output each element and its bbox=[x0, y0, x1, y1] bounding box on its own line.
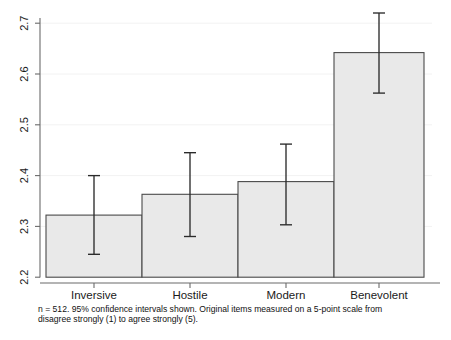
x-tick-label-inversive: Inversive bbox=[71, 289, 117, 301]
x-tick-label-hostile: Hostile bbox=[172, 289, 207, 301]
chart-note-line-2: disagree strongly (1) to agree strongly … bbox=[38, 314, 198, 324]
y-tick-label-1: 2.3 bbox=[18, 219, 30, 234]
x-tick-label-modern: Modern bbox=[267, 289, 306, 301]
chart-figure: 2.7 2.6 2.5 2.4 2.3 2.2 bbox=[0, 0, 451, 340]
x-axis-tick-labels: Inversive Hostile Modern Benevolent bbox=[71, 289, 409, 301]
y-tick-label-5: 2.7 bbox=[18, 16, 30, 31]
y-axis-tick-labels: 2.7 2.6 2.5 2.4 2.3 2.2 bbox=[18, 16, 30, 285]
bar-chart-with-error-bars: 2.7 2.6 2.5 2.4 2.3 2.2 bbox=[0, 0, 451, 340]
y-tick-label-0: 2.2 bbox=[18, 270, 30, 285]
chart-note-line-1: n = 512. 95% confidence intervals shown.… bbox=[38, 304, 382, 314]
y-tick-label-4: 2.6 bbox=[18, 66, 30, 81]
chart-note: n = 512. 95% confidence intervals shown.… bbox=[38, 304, 382, 324]
y-tick-label-3: 2.5 bbox=[18, 117, 30, 132]
y-axis-ticks bbox=[35, 23, 40, 277]
y-tick-label-2: 2.4 bbox=[18, 168, 30, 183]
x-axis-ticks bbox=[94, 283, 379, 288]
x-tick-label-benevolent: Benevolent bbox=[350, 289, 408, 301]
